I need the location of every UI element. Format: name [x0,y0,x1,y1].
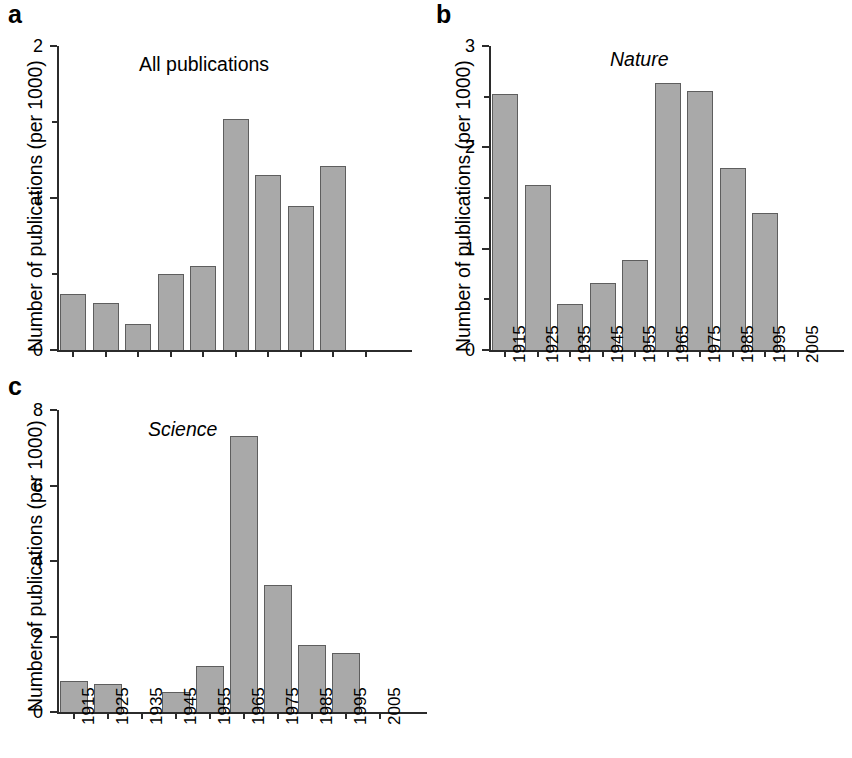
bar [492,94,518,350]
y-tick [50,409,57,411]
x-tick-label: 1945 [609,325,626,363]
x-tick [569,350,571,357]
bar [655,83,681,350]
panel-c-bars [57,410,427,712]
x-tick-label: 1945 [182,687,199,725]
bar [720,168,746,350]
x-tick-label: 2005 [804,325,821,363]
x-tick [141,712,143,719]
panel-b-letter: b [436,2,451,27]
panel-b-y-axis-label: Number of publications (per 1000) [452,60,475,352]
x-tick-label: 1915 [80,687,97,725]
x-tick [107,712,109,719]
x-tick [634,350,636,357]
bar [158,274,184,350]
y-tick [50,711,57,713]
x-tick-label: 1965 [250,687,267,725]
x-tick [170,350,172,357]
panel-b-title: Nature [610,50,669,70]
bar [125,324,151,350]
panel-b-bars [489,46,844,350]
x-tick-label: 1925 [114,687,131,725]
y-tick [50,485,57,487]
panel-a-title: All publications [139,55,269,75]
x-tick [602,350,604,357]
y-tick-label: 2 [11,628,43,646]
y-tick-label: 0 [443,341,475,359]
x-tick [137,350,139,357]
x-tick [345,712,347,719]
x-tick-label: 1975 [706,325,723,363]
bar [288,206,314,350]
x-tick-label: 1965 [674,325,691,363]
x-tick [504,350,506,357]
x-tick-label: 1925 [544,325,561,363]
y-tick [482,146,489,148]
x-tick [267,350,269,357]
y-tick-label: 0 [11,703,43,721]
bar [190,266,216,350]
x-tick [235,350,237,357]
y-tick [50,349,57,351]
y-tick-label: 4 [11,552,43,570]
x-tick [797,350,799,357]
y-tick [482,349,489,351]
x-tick-label: 1955 [216,687,233,725]
y-tick [50,197,57,199]
x-tick-label: 1985 [739,325,756,363]
x-tick [209,712,211,719]
bar [687,91,713,350]
x-tick [277,712,279,719]
x-tick-label: 1935 [576,325,593,363]
x-tick-label: 1955 [641,325,658,363]
y-tick-label: 1 [443,240,475,258]
x-tick [379,712,381,719]
y-tick-label: 0 [11,341,43,359]
x-tick [311,712,313,719]
x-tick [300,350,302,357]
x-tick [175,712,177,719]
x-tick-label: 1995 [771,325,788,363]
x-tick-label: 1985 [318,687,335,725]
y-tick [50,560,57,562]
y-tick-label: 8 [11,401,43,419]
x-tick [365,350,367,357]
bar [320,166,346,350]
y-minor-tick [484,96,489,98]
bar [255,175,281,350]
x-tick-label: 1915 [511,325,528,363]
x-tick [537,350,539,357]
bar [223,119,249,350]
y-tick-label: 2 [11,37,43,55]
x-tick [667,350,669,357]
y-tick [482,45,489,47]
y-minor-tick [52,121,57,123]
x-tick-label: 1995 [352,687,369,725]
y-tick [50,636,57,638]
y-minor-tick [484,197,489,199]
y-tick-label: 3 [443,37,475,55]
y-tick-label: 6 [11,477,43,495]
panel-c-letter: c [8,374,22,399]
y-tick-label: 1 [11,189,43,207]
x-tick [332,350,334,357]
panel-b-plot-area: 0123 19151925193519451955196519751985199… [489,46,844,350]
bar [60,294,86,350]
y-minor-tick [52,273,57,275]
x-tick-label: 2005 [386,687,403,725]
x-tick-label: 1935 [148,687,165,725]
y-minor-tick [484,298,489,300]
x-tick [72,350,74,357]
panel-a-letter: a [8,2,22,27]
x-tick [243,712,245,719]
x-tick [764,350,766,357]
x-tick [202,350,204,357]
panel-c-title: Science [148,420,217,440]
x-tick [105,350,107,357]
y-tick [482,248,489,250]
panel-a-plot-area: 012 [57,46,412,350]
x-tick [73,712,75,719]
x-tick [699,350,701,357]
y-tick [50,45,57,47]
panel-c-plot-area: 02468 1915192519351945195519651975198519… [57,410,427,712]
